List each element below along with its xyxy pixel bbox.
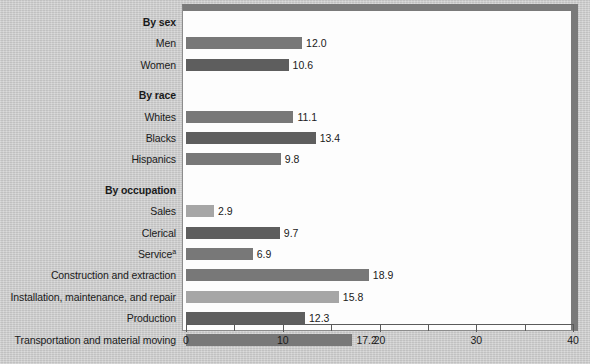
- category-label-clerical: Clerical: [142, 228, 176, 239]
- bar-value-production: 12.3: [309, 312, 329, 324]
- bar-transportation-and-material-moving: [186, 334, 352, 346]
- group-heading-by-sex: By sex: [143, 17, 176, 28]
- bar-chart: By sexMenWomenBy raceWhitesBlacksHispani…: [0, 0, 590, 364]
- category-label-hispanics: Hispanics: [131, 154, 176, 165]
- category-label-service: Servicea: [138, 249, 176, 260]
- footnote-marker: a: [172, 248, 176, 255]
- bar-women: [186, 59, 289, 71]
- bar-installation-maintenance-and-repair: [186, 291, 339, 303]
- bar-value-blacks: 13.4: [320, 132, 340, 144]
- x-tick-10: [283, 325, 284, 332]
- category-label-text: Service: [138, 248, 172, 260]
- x-tick-minor-35: [525, 325, 526, 331]
- category-label-installation-maintenance-and-repair: Installation, maintenance, and repair: [10, 292, 176, 303]
- category-label-whites: Whites: [145, 112, 177, 123]
- bar-sales: [186, 205, 214, 217]
- bar-clerical: [186, 227, 280, 239]
- bar-value-clerical: 9.7: [284, 227, 299, 239]
- bar-production: [186, 312, 305, 324]
- x-tick-20: [380, 325, 381, 332]
- x-tick-minor-25: [428, 325, 429, 331]
- x-tick-30: [476, 325, 477, 332]
- x-tick-label-0: 0: [183, 334, 189, 346]
- category-label-blacks: Blacks: [146, 133, 176, 144]
- bar-value-service: 6.9: [257, 248, 272, 260]
- x-tick-40: [573, 325, 574, 332]
- x-tick-minor-15: [331, 325, 332, 331]
- x-tick-label-40: 40: [567, 334, 579, 346]
- x-tick-label-10: 10: [277, 334, 289, 346]
- x-tick-minor-5: [234, 325, 235, 331]
- plot-area: 12.010.611.113.49.82.99.76.918.915.812.3…: [186, 11, 573, 324]
- bar-value-women: 10.6: [293, 59, 313, 71]
- bar-value-whites: 11.1: [297, 111, 317, 123]
- x-tick-0: [186, 325, 187, 332]
- bar-service: [186, 248, 253, 260]
- category-label-production: Production: [127, 313, 176, 324]
- bar-construction-and-extraction: [186, 269, 369, 281]
- bar-value-sales: 2.9: [218, 205, 233, 217]
- category-label-sales: Sales: [150, 206, 176, 217]
- category-label-women: Women: [141, 60, 177, 71]
- group-heading-by-race: By race: [139, 90, 176, 101]
- bar-value-hispanics: 9.8: [285, 153, 300, 165]
- bar-value-construction-and-extraction: 18.9: [373, 269, 393, 281]
- bar-whites: [186, 111, 293, 123]
- category-label-construction-and-extraction: Construction and extraction: [51, 270, 176, 281]
- bar-value-men: 12.0: [306, 37, 326, 49]
- bar-value-installation-maintenance-and-repair: 15.8: [343, 291, 363, 303]
- bar-hispanics: [186, 153, 281, 165]
- bar-men: [186, 37, 302, 49]
- category-label-men: Men: [156, 38, 176, 49]
- category-label-column: By sexMenWomenBy raceWhitesBlacksHispani…: [0, 0, 181, 364]
- category-label-transportation-and-material-moving: Transportation and material moving: [15, 335, 176, 346]
- x-tick-label-30: 30: [470, 334, 482, 346]
- bar-blacks: [186, 132, 316, 144]
- group-heading-by-occupation: By occupation: [105, 185, 176, 196]
- x-tick-label-20: 20: [374, 334, 386, 346]
